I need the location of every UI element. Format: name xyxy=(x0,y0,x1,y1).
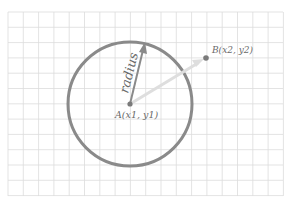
point-a-dot xyxy=(127,101,132,106)
circle-diagram: radius A(x1, y1) B(x2, y2) xyxy=(0,0,289,208)
point-a-label: A(x1, y1) xyxy=(114,109,158,120)
grid xyxy=(8,12,283,196)
point-b-label: B(x2, y2) xyxy=(211,45,253,55)
point-b-dot xyxy=(203,55,209,61)
